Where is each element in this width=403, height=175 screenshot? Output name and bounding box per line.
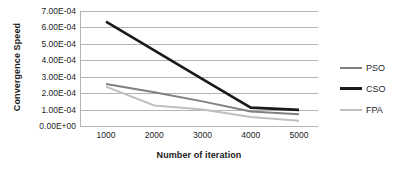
x-axis-tick-label: 5000 <box>276 130 322 140</box>
y-axis-tick-label: 6.00E-04 <box>20 22 76 32</box>
y-axis-tick-label: 0.00E+00 <box>20 121 76 131</box>
y-axis-tick-label: 5.00E-04 <box>20 39 76 49</box>
legend-item-label: PSO <box>366 63 385 73</box>
plot-area <box>80 11 318 126</box>
gridline <box>80 126 318 127</box>
legend-swatch-icon <box>340 67 362 69</box>
series-lines <box>80 11 318 126</box>
y-axis-tick-label: 1.00E-04 <box>20 105 76 115</box>
y-axis-tick-label: 3.00E-04 <box>20 72 76 82</box>
legend-item-cso[interactable]: CSO <box>340 78 402 99</box>
series-line-cso <box>106 22 299 110</box>
convergence-speed-line-chart: Convergence Speed 0.00E+001.00E-042.00E-… <box>0 0 403 175</box>
legend-item-fpa[interactable]: FPA <box>340 99 402 120</box>
y-axis-tick-label: 7.00E-04 <box>20 6 76 16</box>
y-axis-tick-label: 2.00E-04 <box>20 88 76 98</box>
y-axis-tick-labels: 0.00E+001.00E-042.00E-043.00E-044.00E-04… <box>20 0 76 175</box>
legend-item-label: FPA <box>366 105 383 115</box>
x-axis-tick-label: 1000 <box>83 130 129 140</box>
x-axis-tick-labels: 10002000300040005000 <box>80 130 318 144</box>
legend-swatch-icon <box>340 109 362 111</box>
x-axis-tick-label: 3000 <box>180 130 226 140</box>
legend-item-pso[interactable]: PSO <box>340 57 402 78</box>
x-axis-tick-label: 4000 <box>228 130 274 140</box>
x-axis-tick-label: 2000 <box>131 130 177 140</box>
y-axis-tick-label: 4.00E-04 <box>20 55 76 65</box>
series-line-fpa <box>106 87 299 121</box>
legend-swatch-icon <box>340 87 362 90</box>
legend-item-label: CSO <box>366 84 386 94</box>
x-axis-title: Number of iteration <box>80 150 318 160</box>
chart-legend: PSOCSOFPA <box>340 57 402 120</box>
